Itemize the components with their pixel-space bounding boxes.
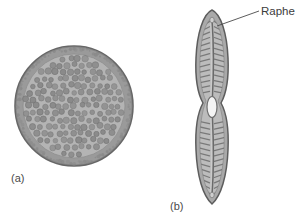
panel-a-centric-diatom: (a) (11, 46, 133, 184)
figure-root: (a) (b) (0, 0, 297, 222)
panel-a-label: (a) (11, 172, 24, 184)
raphe-leader-line (217, 11, 259, 26)
raphe-label: Raphe (261, 5, 295, 17)
panel-b-label: (b) (170, 200, 183, 212)
panel-b-pennate-diatom: (b) (170, 10, 230, 212)
pennate-terminal-nodule-bottom (210, 192, 214, 198)
pennate-central-nodule (207, 97, 217, 118)
pennate-terminal-nodule-top (210, 17, 214, 23)
raphe-annotation: Raphe (217, 5, 295, 26)
diatom-figure: (a) (b) (0, 0, 297, 222)
